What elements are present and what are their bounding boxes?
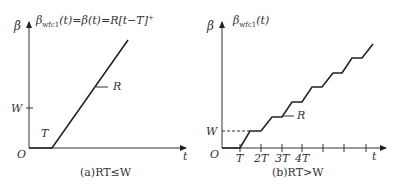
rate-label-b: R [296, 109, 305, 122]
w-label-a: W [11, 102, 24, 115]
x-axis-label-a: t [183, 150, 188, 163]
figure-b: β βwfc1(t) T 2T 3T 4T W R O t (b)RT>W [206, 14, 386, 179]
caption-a: (a)RT≤W [80, 166, 132, 179]
x-axis-label-b: t [372, 150, 377, 163]
rate-label-a: R [112, 80, 121, 93]
tick-label-T: T [236, 152, 245, 165]
tick-label-2T: 2T [253, 152, 270, 165]
origin-label-a: O [17, 148, 26, 161]
figure-a: β βwfc1(t)=β(t)=R[t−T]+ W T R O t (a)RT≤… [11, 14, 188, 179]
y-axis-label-a: β [13, 19, 21, 33]
origin-label-b: O [210, 148, 219, 161]
formula-title-a: βwfc1(t)=β(t)=R[t−T]+ [35, 14, 154, 29]
tick-label-3T: 3T [275, 152, 291, 165]
t-label-a: T [41, 127, 50, 140]
figure-canvas: β βwfc1(t)=β(t)=R[t−T]+ W T R O t (a)RT≤… [0, 0, 395, 192]
tick-label-4T: 4T [294, 152, 311, 165]
caption-b: (b)RT>W [272, 166, 324, 179]
w-label-b: W [206, 125, 219, 138]
y-axis-label-b: β [206, 19, 214, 33]
formula-title-b: βwfc1(t) [232, 14, 269, 29]
service-curve-b [222, 44, 373, 148]
